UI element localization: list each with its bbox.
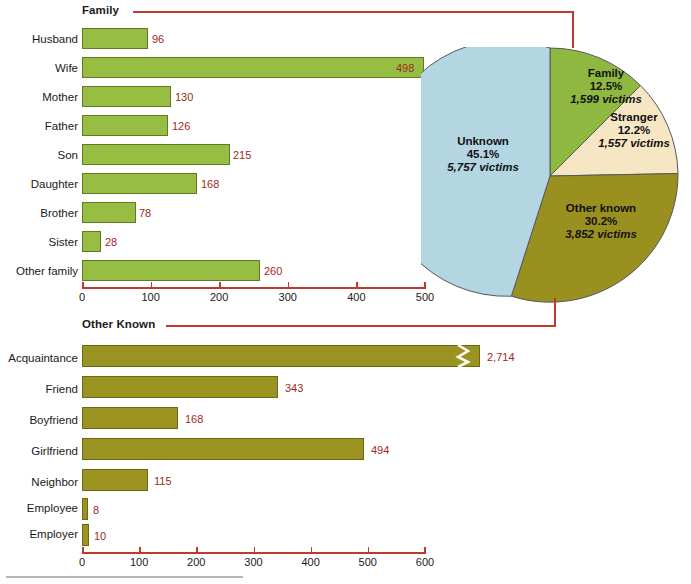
other-known-chart-title: Other Known	[82, 318, 155, 330]
pie-label-family-name: Family	[541, 67, 671, 80]
bar-friend	[82, 376, 278, 398]
cat-label-employer: Employer	[0, 528, 78, 540]
bar-other-family	[82, 260, 260, 281]
family-tick-label-0: 0	[62, 291, 102, 303]
other-known-axis-tick-200	[196, 547, 198, 552]
pie-label-other-known-percent: 30.2%	[536, 215, 666, 228]
pie-label-family-percent: 12.5%	[541, 80, 671, 93]
bar-value-sister: 28	[105, 236, 117, 248]
family-tick-label-100: 100	[131, 291, 171, 303]
bar-value-other-family: 260	[264, 265, 282, 277]
family-connector-horizontal	[133, 11, 574, 13]
pie-label-stranger-percent: 12.2%	[569, 124, 691, 137]
bar-value-girlfriend: 494	[371, 444, 389, 456]
family-axis-line	[82, 287, 426, 289]
bar-value-neighbor: 115	[154, 475, 172, 487]
family-tick-label-300: 300	[268, 291, 308, 303]
family-axis-tick-100	[151, 282, 153, 287]
other-known-tick-label-600: 600	[405, 556, 445, 568]
bar-wife	[82, 57, 424, 78]
family-axis-tick-0	[82, 282, 84, 287]
bar-boyfriend	[82, 407, 178, 429]
bar-value-employee: 8	[93, 504, 99, 516]
bar-value-employer: 10	[94, 530, 106, 542]
footer-divider	[6, 576, 243, 578]
other-known-axis-tick-500	[368, 547, 370, 552]
other-known-tick-label-400: 400	[291, 556, 331, 568]
bar-employer	[82, 524, 89, 546]
bar-father	[82, 115, 168, 136]
bar-husband	[82, 28, 148, 49]
pie-label-unknown-percent: 45.1%	[423, 148, 543, 161]
bar-value-brother: 78	[139, 207, 151, 219]
bar-sister	[82, 231, 101, 252]
family-connector-vertical	[572, 11, 574, 48]
pie-label-family-victims: 1,599 victims	[541, 93, 671, 106]
bar-value-husband: 96	[152, 33, 164, 45]
pie-label-unknown-victims: 5,757 victims	[423, 161, 543, 174]
bar-value-acquaintance: 2,714	[487, 351, 515, 363]
pie-label-stranger-victims: 1,557 victims	[569, 137, 691, 150]
cat-label-friend: Friend	[0, 383, 78, 395]
bar-acquaintance	[82, 345, 480, 367]
bar-value-father: 126	[172, 120, 190, 132]
other-known-tick-label-200: 200	[176, 556, 216, 568]
cat-label-employee: Employee	[0, 502, 78, 514]
bar-employee	[82, 498, 88, 520]
infographic-canvas: Family Husband Wife Mother Father Son Da…	[0, 0, 691, 584]
other-known-axis-tick-0	[82, 547, 84, 552]
family-tick-label-200: 200	[199, 291, 239, 303]
bar-value-boyfriend: 168	[185, 413, 203, 425]
other-known-axis-line	[82, 552, 426, 554]
pie-label-stranger: Stranger 12.2% 1,557 victims	[569, 111, 691, 150]
cat-label-son: Son	[0, 149, 78, 161]
pie-label-family: Family 12.5% 1,599 victims	[541, 67, 671, 106]
bar-value-mother: 130	[175, 91, 193, 103]
other-known-tick-label-0: 0	[62, 556, 102, 568]
family-axis-tick-300	[288, 282, 290, 287]
bar-mother	[82, 86, 171, 107]
bar-daughter	[82, 173, 197, 194]
other-known-axis-tick-400	[311, 547, 313, 552]
pie-label-unknown-name: Unknown	[423, 135, 543, 148]
pie-label-unknown: Unknown 45.1% 5,757 victims	[423, 135, 543, 174]
axis-break-zigzag-icon	[454, 344, 476, 368]
other-known-connector-vertical	[554, 298, 556, 326]
cat-label-neighbor: Neighbor	[0, 476, 78, 488]
other-known-axis-tick-300	[254, 547, 256, 552]
bar-brother	[82, 202, 136, 223]
family-axis-tick-400	[356, 282, 358, 287]
cat-label-father: Father	[0, 120, 78, 132]
family-chart-title: Family	[82, 4, 119, 16]
cat-label-other-family: Other family	[0, 265, 78, 277]
cat-label-wife: Wife	[0, 62, 78, 74]
bar-value-daughter: 168	[201, 178, 219, 190]
bar-son	[82, 144, 230, 165]
other-known-tick-label-300: 300	[234, 556, 274, 568]
bar-value-friend: 343	[285, 382, 303, 394]
cat-label-daughter: Daughter	[0, 178, 78, 190]
bar-neighbor	[82, 469, 148, 491]
other-known-connector-horizontal	[166, 325, 556, 327]
pie-label-other-known: Other known 30.2% 3,852 victims	[536, 202, 666, 241]
bar-value-wife: 498	[396, 62, 414, 74]
cat-label-mother: Mother	[0, 91, 78, 103]
pie-label-other-known-victims: 3,852 victims	[536, 228, 666, 241]
cat-label-boyfriend: Boyfriend	[0, 414, 78, 426]
bar-value-son: 215	[233, 149, 251, 161]
other-known-tick-label-100: 100	[119, 556, 159, 568]
cat-label-brother: Brother	[0, 207, 78, 219]
other-known-axis-tick-600	[424, 547, 426, 552]
family-tick-label-400: 400	[336, 291, 376, 303]
cat-label-girlfriend: Girlfriend	[0, 445, 78, 457]
other-known-tick-label-500: 500	[348, 556, 388, 568]
relationship-pie-chart: Family 12.5% 1,599 victims Stranger 12.2…	[421, 47, 679, 305]
cat-label-sister: Sister	[0, 236, 78, 248]
pie-label-stranger-name: Stranger	[569, 111, 691, 124]
pie-label-other-known-name: Other known	[536, 202, 666, 215]
cat-label-husband: Husband	[0, 33, 78, 45]
family-axis-tick-200	[219, 282, 221, 287]
bar-girlfriend	[82, 438, 364, 460]
other-known-axis-tick-100	[139, 547, 141, 552]
cat-label-acquaintance: Acquaintance	[0, 352, 78, 364]
